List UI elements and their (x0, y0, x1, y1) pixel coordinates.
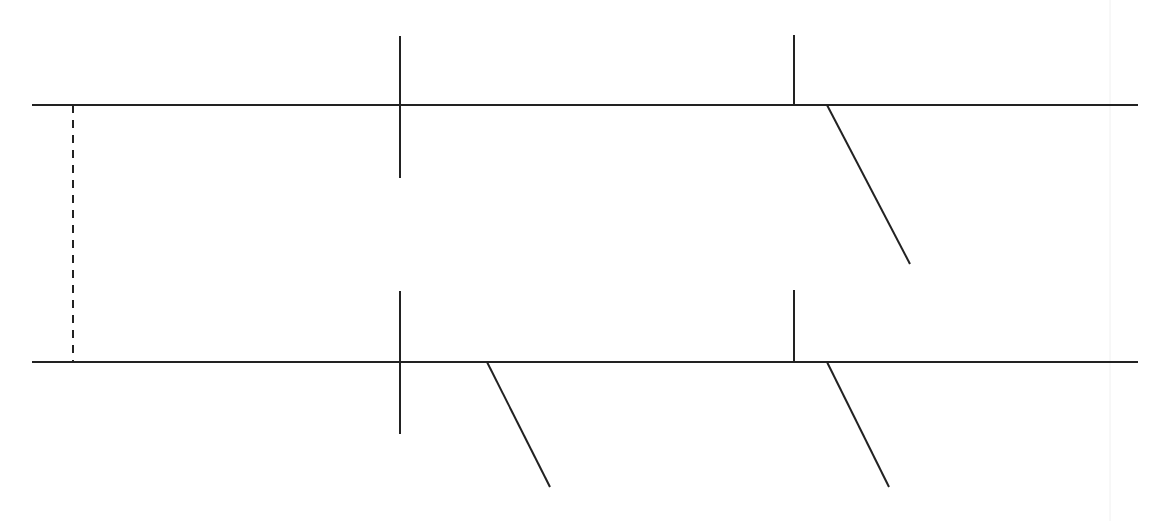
bottom-right-branch-line (827, 362, 889, 487)
line-diagram (0, 0, 1162, 521)
bottom-mid-branch-line (487, 362, 550, 487)
diagram-canvas (0, 0, 1162, 521)
lines-layer (32, 35, 1138, 487)
top-right-branch-line (827, 105, 910, 264)
